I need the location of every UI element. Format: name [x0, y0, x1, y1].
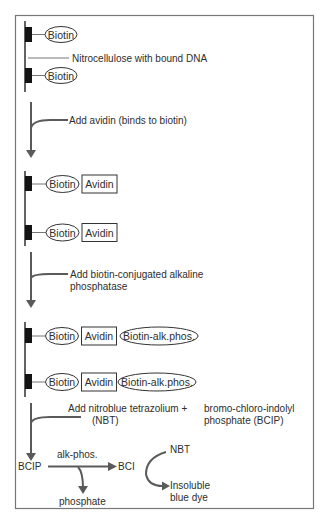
diagram-canvas: Biotin Biotin Nitrocellulose with bound …: [0, 0, 326, 523]
dna-block: [25, 68, 32, 83]
stage2-membrane: Biotin Avidin Biotin Avidin: [25, 171, 117, 246]
dna-block: [25, 328, 32, 343]
avidin-label: Avidin: [85, 227, 114, 239]
step3-label-line1-left: Add nitroblue tetrazolium +: [68, 403, 187, 414]
step2-label-line1: Add biotin-conjugated alkaline: [70, 269, 204, 280]
biotin-alk-phos-label: Biotin-alk.phos.: [123, 330, 195, 342]
stage1-membrane: Biotin Biotin Nitrocellulose with bound …: [25, 21, 207, 92]
phosphate-label: phosphate: [59, 496, 106, 507]
dna-block: [25, 176, 32, 191]
dna-block: [25, 225, 32, 240]
bcip-label: BCIP: [18, 461, 42, 472]
diagram-frame: [16, 16, 314, 509]
biotin-label: Biotin: [49, 227, 75, 239]
step1-label: Add avidin (binds to biotin): [69, 115, 187, 126]
avidin-label: Avidin: [85, 178, 114, 190]
alk-phos-label: alk-phos.: [57, 449, 98, 460]
biotin-alk-phos-label: Biotin-alk.phos.: [121, 376, 193, 388]
stage3-membrane: Biotin Avidin Biotin-alk.phos. Biotin Av…: [25, 322, 198, 397]
step1-arrow: [26, 102, 68, 158]
step2-label-line2: phosphatase: [70, 281, 128, 292]
biotin-label: Biotin: [49, 330, 75, 342]
step3-label-line2-right: phosphate (BCIP): [204, 415, 284, 426]
biotin-label: Biotin: [49, 178, 75, 190]
biotin-label: Biotin: [48, 70, 74, 82]
biotin-label: Biotin: [48, 29, 74, 41]
biotin-label: Biotin: [49, 376, 75, 388]
avidin-label: Avidin: [85, 330, 114, 342]
step3-label-line2-left: (NBT): [92, 415, 119, 426]
result-label-line1: Insoluble: [170, 480, 210, 491]
dna-block: [25, 374, 32, 389]
bci-label: BCI: [118, 461, 135, 472]
avidin-label: Avidin: [85, 376, 114, 388]
step2-arrow: [26, 252, 68, 308]
step3-label-line1-right: bromo-chloro-indolyl: [204, 403, 295, 414]
reaction-scheme: BCIP alk-phos. BCI phosphate NBT Insolub…: [18, 444, 210, 507]
dna-block: [25, 27, 32, 42]
result-label-line2: blue dye: [170, 492, 208, 503]
nbt-label: NBT: [170, 444, 190, 455]
membrane-label: Nitrocellulose with bound DNA: [72, 53, 207, 64]
